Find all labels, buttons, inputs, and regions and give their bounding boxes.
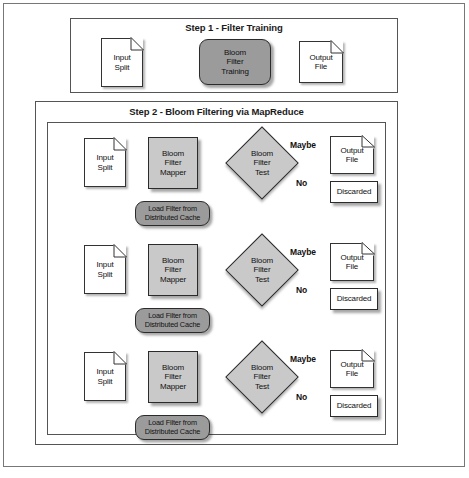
- row1-maybe-label: Maybe: [290, 140, 316, 150]
- label-line-1: Input: [113, 53, 130, 62]
- step1-bloom-filter-training: Bloom Filter Training: [199, 39, 271, 85]
- step1-output-file-label: Output File: [309, 53, 332, 72]
- label-line-1: Bloom: [162, 149, 184, 158]
- row3-bloom-filter-mapper-label: Bloom Filter Mapper: [160, 363, 186, 392]
- label-line-2: Distributed Cache: [145, 427, 200, 436]
- row1-output-file: Output File: [330, 136, 374, 174]
- label-line-1: Bloom: [162, 256, 184, 265]
- label-line-1: Input: [96, 367, 113, 376]
- row3-bloom-filter-mapper: Bloom Filter Mapper: [148, 351, 198, 403]
- label-line-1: Output: [340, 360, 363, 369]
- label-line-2: Filter: [165, 372, 182, 381]
- row2-bloom-filter-mapper-label: Bloom Filter Mapper: [160, 256, 186, 285]
- row2-input-split-label: Input Split: [96, 260, 113, 279]
- label-line-1: Bloom: [251, 256, 273, 265]
- label-line-1: Bloom: [162, 363, 184, 372]
- row1-discarded-label: Discarded: [337, 187, 372, 197]
- row3-discarded-label: Discarded: [337, 401, 372, 411]
- step1-input-split-label: Input Split: [113, 53, 130, 72]
- label-line-3: Mapper: [160, 382, 186, 391]
- bloom-filter-flowchart: Step 1 - Filter Training Input Split Blo…: [0, 0, 469, 478]
- label-line-3: Test: [255, 382, 269, 391]
- row2-no-label: No: [296, 285, 307, 295]
- row1-no-label: No: [296, 178, 307, 188]
- row3-bloom-filter-test: Bloom Filter Test: [236, 351, 288, 403]
- label-line-2: Filter: [165, 265, 182, 274]
- row2-maybe-label: Maybe: [290, 247, 316, 257]
- row1-discarded: Discarded: [330, 181, 378, 203]
- label-line-2: Filter: [254, 265, 271, 274]
- row1-bloom-filter-test-label: Bloom Filter Test: [236, 137, 288, 189]
- page-fold-icon: [113, 138, 126, 151]
- row1-bloom-filter-test: Bloom Filter Test: [236, 137, 288, 189]
- label-line-1: Output: [340, 146, 363, 155]
- label-line-2: Filter: [254, 372, 271, 381]
- label-line-2: Split: [98, 377, 113, 386]
- label-line-2: Filter: [165, 158, 182, 167]
- label-line-2: Split: [98, 163, 113, 172]
- step1-bloom-filter-training-label: Bloom Filter Training: [221, 48, 248, 77]
- page-fold-icon: [113, 352, 126, 365]
- label-line-3: Test: [255, 168, 269, 177]
- label-line-1: Output: [309, 53, 332, 62]
- row3-input-split: Input Split: [84, 352, 126, 401]
- row1-bloom-filter-mapper-label: Bloom Filter Mapper: [160, 149, 186, 178]
- row3-discarded: Discarded: [330, 395, 378, 417]
- label-line-1: Bloom: [251, 363, 273, 372]
- label-line-2: Split: [98, 270, 113, 279]
- step2-title: Step 2 - Bloom Filtering via MapReduce: [35, 106, 398, 117]
- step1-title: Step 1 - Filter Training: [70, 22, 398, 33]
- label-line-1: Input: [96, 153, 113, 162]
- label-line-2: Split: [115, 63, 130, 72]
- row2-output-file-label: Output File: [340, 253, 363, 272]
- label-line-3: Mapper: [160, 275, 186, 284]
- row3-output-file-label: Output File: [340, 360, 363, 379]
- row2-input-split: Input Split: [84, 245, 126, 294]
- row2-load-filter-cache-label: Load Filter from Distributed Cache: [145, 312, 200, 329]
- row2-output-file: Output File: [330, 243, 374, 281]
- row1-output-file-label: Output File: [340, 146, 363, 165]
- row2-discarded-label: Discarded: [337, 294, 372, 304]
- label-line-2: Filter: [227, 57, 244, 66]
- row2-discarded: Discarded: [330, 288, 378, 310]
- row3-maybe-label: Maybe: [290, 354, 316, 364]
- row1-input-split-label: Input Split: [96, 153, 113, 172]
- row3-bloom-filter-test-label: Bloom Filter Test: [236, 351, 288, 403]
- row2-bloom-filter-test-label: Bloom Filter Test: [236, 244, 288, 296]
- label-line-2: File: [346, 262, 358, 271]
- row1-load-filter-cache-label: Load Filter from Distributed Cache: [145, 205, 200, 222]
- row1-bloom-filter-mapper: Bloom Filter Mapper: [148, 137, 198, 189]
- row1-load-filter-cache: Load Filter from Distributed Cache: [135, 201, 210, 226]
- page-fold-icon: [113, 245, 126, 258]
- step1-output-file: Output File: [299, 41, 343, 83]
- row3-load-filter-cache-label: Load Filter from Distributed Cache: [145, 419, 200, 436]
- row3-no-label: No: [296, 392, 307, 402]
- row3-input-split-label: Input Split: [96, 367, 113, 386]
- step1-input-split: Input Split: [101, 38, 143, 87]
- label-line-3: Mapper: [160, 168, 186, 177]
- label-line-1: Output: [340, 253, 363, 262]
- label-line-3: Test: [255, 275, 269, 284]
- label-line-3: Training: [221, 67, 248, 76]
- label-line-1: Bloom: [224, 48, 246, 57]
- row3-load-filter-cache: Load Filter from Distributed Cache: [135, 415, 210, 440]
- row1-input-split: Input Split: [84, 138, 126, 187]
- label-line-2: File: [346, 155, 358, 164]
- row2-bloom-filter-test: Bloom Filter Test: [236, 244, 288, 296]
- label-line-2: Filter: [254, 158, 271, 167]
- label-line-1: Bloom: [251, 149, 273, 158]
- label-line-2: Distributed Cache: [145, 213, 200, 222]
- row2-load-filter-cache: Load Filter from Distributed Cache: [135, 308, 210, 333]
- row2-bloom-filter-mapper: Bloom Filter Mapper: [148, 244, 198, 296]
- label-line-2: Distributed Cache: [145, 320, 200, 329]
- row3-output-file: Output File: [330, 350, 374, 388]
- label-line-1: Input: [96, 260, 113, 269]
- label-line-2: File: [346, 369, 358, 378]
- page-fold-icon: [130, 38, 143, 51]
- label-line-2: File: [315, 62, 327, 71]
